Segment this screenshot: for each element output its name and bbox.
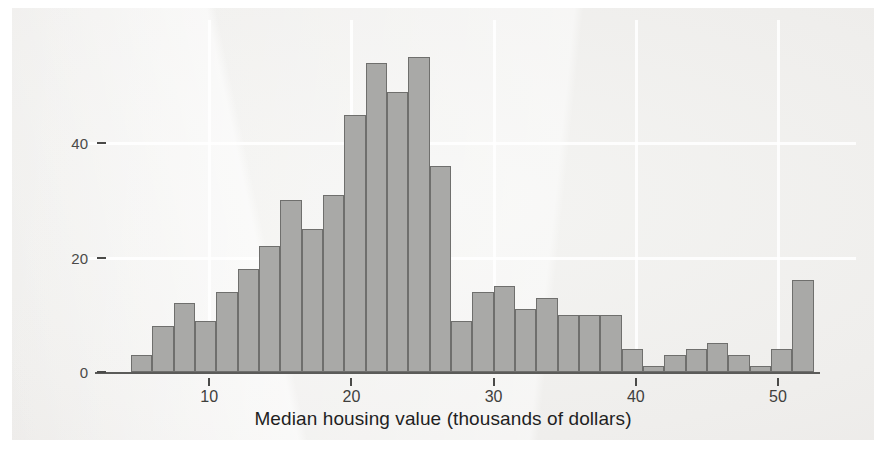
histogram-bar xyxy=(195,321,216,372)
x-axis-tick-label: 50 xyxy=(748,389,808,405)
histogram-bar xyxy=(558,315,579,372)
x-axis-tick-label: 20 xyxy=(321,389,381,405)
histogram-bar xyxy=(280,200,301,372)
x-axis-tick-label: 10 xyxy=(179,389,239,405)
x-axis-tick-mark xyxy=(208,378,210,386)
histogram-bar xyxy=(771,349,792,372)
histogram-bar xyxy=(579,315,600,372)
histogram-bar xyxy=(366,63,387,372)
histogram-bar xyxy=(344,115,365,372)
x-axis-tick-mark xyxy=(635,378,637,386)
histogram-bar xyxy=(323,195,344,372)
histogram-bar xyxy=(515,309,536,372)
histogram-bar xyxy=(131,355,152,372)
y-axis-tick-label: 40 xyxy=(71,136,88,151)
y-axis-tick-label: 20 xyxy=(71,251,88,266)
histogram-bar xyxy=(664,355,685,372)
histogram-bar xyxy=(430,166,451,372)
gridline-horizontal xyxy=(86,142,856,145)
x-axis-label: Median housing value (thousands of dolla… xyxy=(0,408,886,430)
x-axis-tick-mark xyxy=(350,378,352,386)
histogram-bar xyxy=(600,315,621,372)
y-axis-tick: 40 xyxy=(40,135,110,151)
histogram-bar xyxy=(259,246,280,372)
histogram-bar xyxy=(622,349,643,372)
histogram-bar xyxy=(387,92,408,372)
histogram-bar xyxy=(707,343,728,372)
histogram-bar xyxy=(174,303,195,372)
histogram-bar xyxy=(728,355,749,372)
gridline-horizontal xyxy=(86,257,856,260)
histogram-bar xyxy=(238,269,259,372)
x-axis-tick-label: 40 xyxy=(606,389,666,405)
y-axis-tick-mark xyxy=(97,142,106,144)
gridline-vertical xyxy=(635,20,638,373)
histogram-bar xyxy=(792,280,813,372)
histogram-bar xyxy=(408,57,429,372)
histogram-bar xyxy=(536,298,557,372)
y-axis-tick-label: 0 xyxy=(80,365,88,380)
histogram-figure: 02040 1020304050 Median housing value (t… xyxy=(0,0,886,457)
histogram-bar xyxy=(494,286,515,372)
histogram-bar xyxy=(451,321,472,372)
y-axis-tick: 0 xyxy=(40,364,110,380)
histogram-bar xyxy=(472,292,493,372)
x-axis-tick-mark xyxy=(493,378,495,386)
histogram-bar xyxy=(302,229,323,372)
y-axis-tick: 20 xyxy=(40,250,110,266)
x-axis-tick-label: 30 xyxy=(464,389,524,405)
histogram-bar xyxy=(216,292,237,372)
y-axis-tick-mark xyxy=(97,257,106,259)
y-axis-tick-mark xyxy=(97,371,106,373)
x-axis-line xyxy=(95,372,820,374)
gridline-vertical xyxy=(777,20,780,373)
plot-area: 02040 1020304050 Median housing value (t… xyxy=(0,0,886,457)
histogram-bar xyxy=(152,326,173,372)
histogram-bar xyxy=(686,349,707,372)
x-axis-tick-mark xyxy=(777,378,779,386)
